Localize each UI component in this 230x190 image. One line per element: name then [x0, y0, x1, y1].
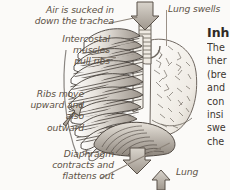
label-air-sucked-in: Air is sucked in down the trachea — [4, 4, 114, 26]
body-copy-line-5: insi — [207, 108, 230, 121]
label-ribs-move: Ribs move upward and also outward — [2, 88, 84, 133]
lung-up-arrow — [152, 170, 170, 190]
body-copy-heading: Inh — [207, 26, 230, 39]
inhalation-diagram-page: Air is sucked in down the trachea Interc… — [0, 0, 230, 190]
label-intercostal-muscles: Intercostal muscles pull ribs — [6, 33, 110, 67]
label-lung-swells: Lung swells — [168, 3, 230, 14]
body-copy-line-2: (bre — [207, 68, 230, 81]
air-in-arrow — [131, 2, 159, 30]
body-copy-line-1: ther — [207, 54, 230, 67]
label-lung-bottom: Lung — [176, 166, 230, 177]
leader-line-lung-swells — [166, 10, 167, 46]
body-copy-line-7: che — [207, 135, 230, 148]
body-copy-line-3: and — [207, 81, 230, 94]
body-copy-line-6: swe — [207, 121, 230, 134]
body-copy-line-0: The — [207, 41, 230, 54]
label-diaphragm-contracts: Diaphragm contracts and flattens out — [2, 148, 114, 182]
body-copy-column: Inh The ther (bre and con insi swe che — [207, 26, 230, 148]
body-copy-line-4: con — [207, 95, 230, 108]
